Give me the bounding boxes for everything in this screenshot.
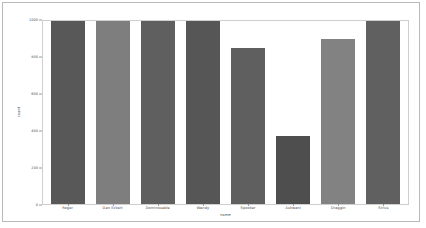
x-tick-mark [113,204,114,206]
x-tick-label-text: Ashwani [286,206,301,210]
x-tick-label-text: Draggin [331,206,346,210]
bar-slot [181,21,226,204]
bar[interactable] [321,39,355,204]
bar-slot [315,21,360,204]
bar-slot [91,21,136,204]
x-tick-mark [248,204,249,206]
bar[interactable] [366,21,400,204]
x-tick-label-text: Spooker [241,206,256,210]
bar[interactable] [276,136,310,204]
x-tick-label-text: Sirius [378,206,388,210]
bar[interactable] [231,48,265,204]
y-tick-label: 1000 [29,18,38,22]
y-axis: 02004006008001000 [3,20,42,205]
y-tick-label: 600 [31,92,38,96]
bar[interactable] [141,21,175,204]
x-tick-mark [338,204,339,206]
y-tick-label: 800 [31,55,38,59]
bar-slot [226,21,271,204]
bar[interactable] [96,21,130,204]
bar-slot [136,21,181,204]
x-tick-mark [158,204,159,206]
y-axis-title: count [17,107,21,118]
bar-series [43,21,408,204]
figure-frame: 02004006008001000 count RogerDan EckertD… [2,2,420,222]
x-tick-label-text: Roger [62,206,73,210]
bar-slot [360,21,405,204]
bar[interactable] [186,21,220,204]
bar-slot [46,21,91,204]
x-tick-mark [68,204,69,206]
y-tick-label: 200 [31,166,38,170]
x-tick-mark [203,204,204,206]
plot-area [42,20,409,205]
x-tick-mark [293,204,294,206]
x-axis-title: name [42,213,409,217]
bar[interactable] [51,21,85,204]
x-tick-label-text: Wendy [197,206,209,210]
bar-slot [270,21,315,204]
y-tick-label: 0 [36,203,38,207]
y-tick-label: 400 [31,129,38,133]
x-tick-label-text: Dan Eckert [103,206,123,210]
x-tick-mark [383,204,384,206]
x-tick-label-text: Dominoseble [146,206,170,210]
